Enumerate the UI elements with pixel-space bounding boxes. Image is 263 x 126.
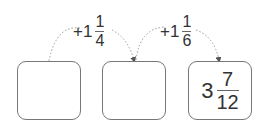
operation-1-prefix: +1 [73,22,92,42]
result-value: 3 7 12 [189,62,251,119]
result-fraction: 7 12 [217,69,239,112]
operation-1-label: +1 1 4 [73,14,104,49]
operation-2-label: +1 1 6 [160,14,191,49]
answer-box-2[interactable] [102,61,166,120]
operation-1-fraction: 1 4 [95,14,104,49]
denominator: 6 [182,33,191,49]
denominator: 12 [217,92,239,112]
whole-number: 3 [201,78,213,104]
numerator: 1 [182,14,191,30]
numerator: 7 [222,69,233,89]
numerator: 1 [95,14,104,30]
denominator: 4 [95,33,104,49]
operation-2-prefix: +1 [160,22,179,42]
answer-box-1[interactable] [17,61,81,120]
operation-2-fraction: 1 6 [182,14,191,49]
result-box: 3 7 12 [188,61,252,120]
